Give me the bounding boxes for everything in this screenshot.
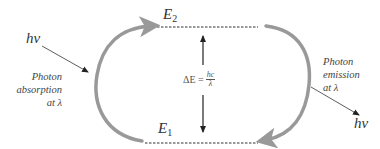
energy-gap-lhs: ΔE =: [183, 74, 204, 85]
emission-note-line-3: at λ: [323, 81, 360, 94]
energy-gap-equation: ΔE = hc λ: [183, 71, 215, 88]
absorption-note-line-2: absorption: [0, 83, 62, 96]
energy-gap-fraction: hc λ: [206, 71, 216, 88]
upper-level-label: E2: [163, 6, 177, 24]
emitted-photon-label: hν: [354, 115, 368, 132]
upper-level-symbol: E: [163, 6, 172, 22]
absorption-note-line-1: Photon: [0, 70, 62, 83]
absorption-note-line-3: at λ: [0, 96, 62, 109]
lower-level-subscript: 1: [167, 127, 172, 138]
emission-note-line-2: emission: [323, 68, 360, 81]
fraction-denominator: λ: [209, 80, 212, 88]
lower-level-symbol: E: [158, 120, 167, 136]
emission-note: Photon emission at λ: [323, 55, 360, 94]
absorption-note: Photon absorption at λ: [0, 70, 62, 109]
lower-level-label: E1: [158, 120, 172, 138]
upper-level-subscript: 2: [172, 13, 177, 24]
absorption-cycle-arrow: [96, 26, 150, 141]
energy-transition-diagram: E2 E1 ΔE = hc λ hν Photon absorption at …: [0, 0, 380, 149]
emission-cycle-arrow: [266, 26, 309, 140]
incoming-photon-arrow: [42, 46, 88, 72]
emission-note-line-1: Photon: [323, 55, 360, 68]
absorbed-photon-label: hν: [26, 30, 40, 47]
